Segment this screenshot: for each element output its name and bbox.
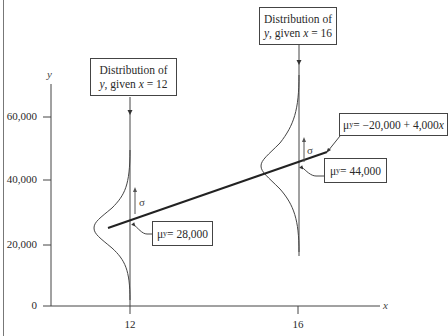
leader-mean-12 [133,224,152,234]
y-axis-label: y [47,68,52,80]
callout-line2: y, given x = 16 [260,26,336,40]
arrowhead-icon [299,165,305,171]
y-tick-label: 20,000 [7,238,37,250]
callout-distribution-16: Distribution of y, given x = 16 [259,7,337,45]
x-axis-label: x [383,299,388,311]
callout-line1: Distribution of [260,12,336,26]
arrowhead-icon [128,110,133,115]
regression-line [108,152,327,228]
callout-line2: y, given x = 12 [91,77,176,91]
normal-curve-12 [94,150,130,300]
y-tick-label: 60,000 [7,110,37,122]
leader-mean-16 [302,167,324,176]
y-tick-label: 40,000 [7,173,37,185]
x-tick-label: 16 [283,318,313,330]
x-tick-label: 12 [115,318,145,330]
arrow-up-icon [302,137,306,142]
callout-line1: Distribution of [91,63,176,77]
callout-distribution-12: Distribution of y, given x = 12 [90,58,177,96]
y-tick-label: 0 [32,299,38,311]
sigma-label: σ [139,196,145,208]
arrow-up-icon [133,187,137,192]
arrowhead-icon [297,60,302,65]
callout-regression-equation: μy = −20,000 + 4,000x [339,113,448,136]
leader-equation [328,136,340,151]
regression-diagram: y x 60,000 40,000 20,000 0 12 16 σ σ Dis… [0,0,448,336]
callout-mean-16: μy = 44,000 [324,158,387,183]
callout-mean-12: μy = 28,000 [152,221,213,246]
sigma-label: σ [307,144,313,156]
